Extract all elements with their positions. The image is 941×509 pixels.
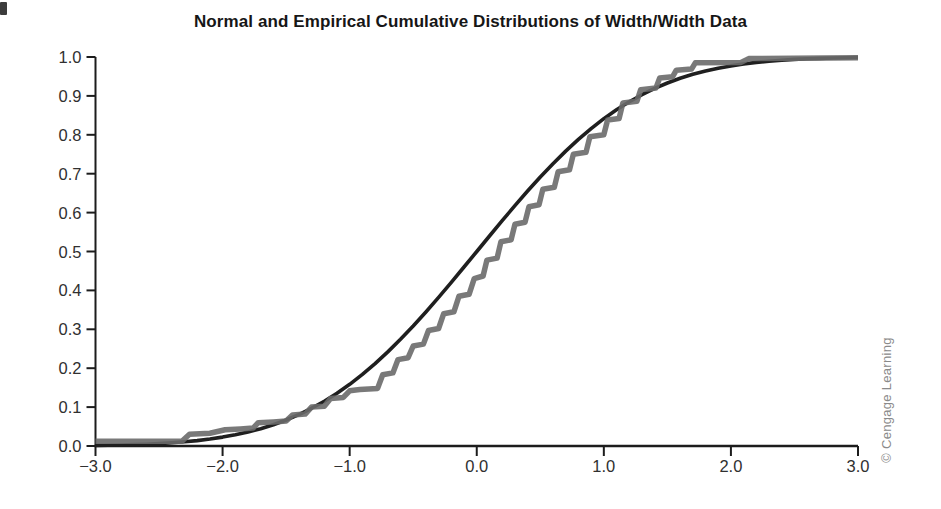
y-tick-label: 0.3 — [59, 320, 82, 338]
y-tick-label: 0.9 — [59, 87, 82, 105]
normal-cdf-line — [96, 58, 859, 446]
figure-page: Normal and Empirical Cumulative Distribu… — [0, 0, 941, 509]
y-tick-label: 0.4 — [59, 281, 82, 299]
x-tick-label: 1.0 — [592, 457, 615, 475]
y-tick-label: 0.8 — [59, 126, 82, 144]
x-tick-label: −3.0 — [79, 457, 112, 475]
x-tick-label: 3.0 — [847, 457, 870, 475]
y-tick-label: 0.2 — [59, 359, 82, 377]
plot-series — [96, 58, 859, 446]
y-tick-label: 1.0 — [59, 48, 82, 66]
cdf-plot: 0.00.10.20.30.40.50.60.70.80.91.0−3.0−2.… — [0, 0, 941, 509]
y-tick-label: 0.6 — [59, 204, 82, 222]
x-tick-label: 2.0 — [719, 457, 742, 475]
tick-labels: 0.00.10.20.30.40.50.60.70.80.91.0−3.0−2.… — [59, 48, 870, 475]
y-tick-label: 0.7 — [59, 165, 82, 183]
x-tick-label: −2.0 — [206, 457, 239, 475]
y-tick-label: 0.5 — [59, 243, 82, 261]
x-tick-label: 0.0 — [465, 457, 488, 475]
y-tick-label: 0.1 — [59, 398, 82, 416]
y-tick-label: 0.0 — [59, 437, 82, 455]
copyright-credit: © Cengage Learning — [879, 337, 894, 463]
x-tick-label: −1.0 — [333, 457, 366, 475]
